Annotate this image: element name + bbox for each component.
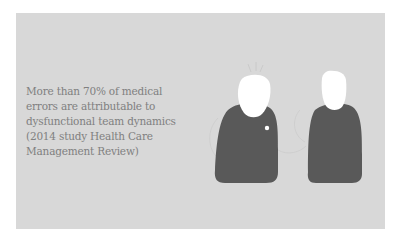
sparkle-icon bbox=[248, 62, 263, 72]
person-left-icon bbox=[215, 75, 278, 183]
team-illustration bbox=[0, 0, 400, 242]
person-right-icon bbox=[308, 71, 362, 183]
badge-dot-icon bbox=[265, 126, 269, 130]
